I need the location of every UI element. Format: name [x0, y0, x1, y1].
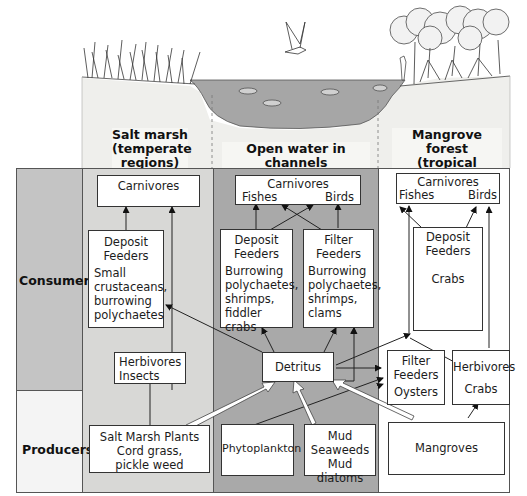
box-description: Oysters [388, 385, 444, 399]
desc-line: Burrowing [225, 264, 288, 278]
box-title: Mangroves [415, 441, 478, 455]
box-title: Salt Marsh Plants [90, 430, 209, 444]
box-description: Cord grass, [90, 444, 209, 458]
box-title: Carnivores [397, 175, 499, 189]
desc-line: polychaetes, [225, 278, 288, 292]
detritus-box: Detritus [262, 352, 334, 382]
box-title: Carnivores [236, 177, 360, 191]
carnivore-fishes-label: Fishes [242, 190, 277, 204]
carnivore-birds-label: Birds [468, 188, 497, 202]
salt-marsh-herbivores-box: Herbivores Insects [114, 352, 186, 384]
box-title: Feeders [388, 368, 444, 382]
box-title: Deposit [414, 230, 482, 244]
box-description: pickle weed [90, 458, 209, 472]
salt-marsh-deposit-feeders-box: Deposit Feeders Small crustaceans, burro… [88, 230, 164, 328]
mangrove-carnivores-box: Carnivores Fishes Birds [396, 173, 500, 204]
mangrove-filter-feeders-box: Filter Feeders Oysters [387, 350, 445, 405]
box-title: Feeders [225, 247, 288, 261]
desc-line: clams [308, 306, 369, 320]
box-description: Burrowing polychaetes, shrimps, clams [308, 264, 369, 320]
box-title: Detritus [275, 360, 321, 374]
box-description: Burrowing polychaetes, shrimps, fiddler … [225, 264, 288, 334]
box-description: Seaweeds [305, 443, 375, 457]
box-title: Deposit [94, 235, 158, 249]
mangroves-producer-box: Mangroves [388, 422, 505, 475]
carnivore-fishes-label: Fishes [399, 188, 434, 202]
box-title: Feeders [308, 247, 369, 261]
desc-line: Burrowing [308, 264, 369, 278]
desc-line: shrimps, [225, 292, 288, 306]
box-title: Filter [308, 233, 369, 247]
box-title: Deposit [225, 233, 288, 247]
box-title: Mud [305, 429, 375, 443]
mangrove-herbivores-box: Herbivores Crabs [452, 350, 510, 405]
mud-seaweeds-box: Mud Seaweeds Mud diatoms [304, 424, 376, 476]
box-description: Crabs [453, 382, 509, 396]
box-title: Herbivores [119, 355, 181, 369]
desc-line: Small [94, 266, 158, 280]
box-title: Phytoplankton [222, 442, 301, 455]
salt-marsh-plants-box: Salt Marsh Plants Cord grass, pickle wee… [89, 425, 210, 473]
open-water-carnivores-box: Carnivores Fishes Birds [235, 175, 361, 205]
carnivore-birds-label: Birds [325, 190, 354, 204]
open-water-deposit-feeders-box: Deposit Feeders Burrowing polychaetes, s… [220, 229, 293, 328]
box-title: Carnivores [118, 179, 179, 193]
box-description: Small crustaceans, burrowing polychaetes [94, 266, 158, 322]
box-description: Crabs [414, 272, 482, 286]
salt-marsh-carnivores-box: Carnivores [97, 175, 200, 207]
desc-line: polychaetes, [308, 278, 369, 292]
box-title: Feeders [414, 244, 482, 258]
desc-line: burrowing [94, 294, 158, 308]
box-title: Filter [388, 354, 444, 368]
box-title: Herbivores [453, 360, 509, 374]
box-description: Mud diatoms [305, 457, 375, 485]
phytoplankton-box: Phytoplankton [221, 424, 294, 476]
open-water-filter-feeders-box: Filter Feeders Burrowing polychaetes, sh… [303, 229, 374, 328]
desc-line: fiddler [225, 306, 288, 320]
mangrove-deposit-feeders-box: Deposit Feeders Crabs [413, 227, 483, 331]
desc-line: shrimps, [308, 292, 369, 306]
box-title: Feeders [94, 249, 158, 263]
desc-line: crabs [225, 320, 288, 334]
box-description: Insects [119, 369, 181, 383]
desc-line: polychaetes [94, 308, 158, 322]
desc-line: crustaceans, [94, 280, 158, 294]
